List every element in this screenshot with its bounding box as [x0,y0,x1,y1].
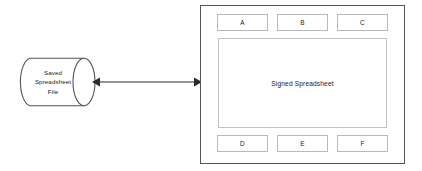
saved-spreadsheet-file-node: Saved Spreadsheet File [18,57,96,107]
device-panel: A B C Signed Spreadsheet D E [200,5,405,164]
key-button-f[interactable]: F [337,135,388,152]
bottom-key-row: D E F [217,135,388,152]
key-button-d-label: D [240,140,245,147]
device-panel-inner: A B C Signed Spreadsheet D E [201,6,404,163]
bidirectional-arrow-icon [90,72,204,92]
key-button-e[interactable]: E [277,135,328,152]
key-button-d[interactable]: D [217,135,268,152]
key-button-c-label: C [360,19,365,26]
key-button-f-label: F [360,140,364,147]
key-button-a[interactable]: A [217,14,268,31]
key-button-b-label: B [300,19,304,26]
signed-spreadsheet-screen: Signed Spreadsheet [218,38,387,128]
key-button-e-label: E [300,140,304,147]
key-button-c[interactable]: C [337,14,388,31]
key-button-b[interactable]: B [277,14,328,31]
top-key-row: A B C [217,14,388,31]
signed-spreadsheet-label: Signed Spreadsheet [271,80,333,87]
saved-spreadsheet-file-label: Saved Spreadsheet File [24,57,82,107]
diagram-canvas: Saved Spreadsheet File A B C Signed Spre… [0,0,422,171]
key-button-a-label: A [240,19,244,26]
